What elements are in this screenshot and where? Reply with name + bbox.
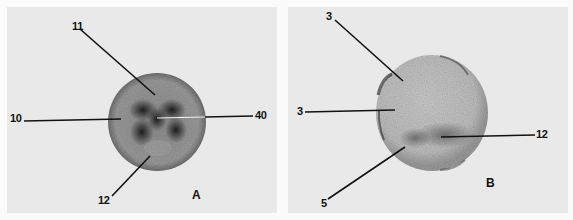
cell-a (108, 73, 206, 171)
label-5: 5 (321, 198, 327, 209)
label-10: 10 (10, 113, 22, 124)
label-11: 11 (72, 21, 83, 32)
label-3-top: 3 (326, 11, 332, 22)
panel-letter-a: A (192, 189, 200, 201)
label-3-middle: 3 (297, 106, 303, 117)
label-40: 40 (255, 110, 267, 121)
label-12: 12 (98, 195, 110, 206)
label-12-b: 12 (536, 129, 548, 140)
panel-letter-b: B (486, 177, 494, 189)
figure: 11 10 40 12 A 3 3 12 5 B (0, 0, 573, 220)
